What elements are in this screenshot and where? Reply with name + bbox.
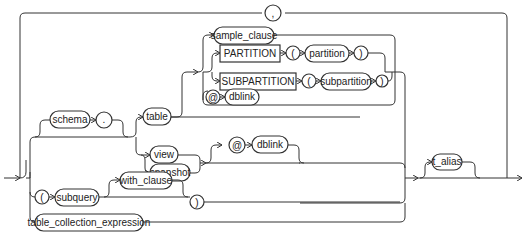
link	[172, 180, 188, 197]
link	[206, 145, 222, 163]
link	[104, 180, 120, 197]
subpartition-keyword: SUBPARTITION	[220, 73, 296, 90]
svg-text:): )	[195, 197, 198, 208]
svg-text:table_collection_expression: table_collection_expression	[28, 217, 151, 228]
svg-text:t_alias: t_alias	[433, 156, 462, 167]
link	[212, 72, 220, 81]
subpartition-node: subpartition	[320, 73, 372, 90]
link	[171, 72, 198, 117]
partition-keyword: PARTITION	[220, 45, 280, 62]
to-view	[136, 137, 150, 155]
link	[368, 53, 385, 72]
link	[203, 53, 220, 72]
to-table	[130, 117, 143, 137]
subquery-node: subquery	[55, 189, 99, 206]
svg-text:schema: schema	[52, 114, 87, 125]
svg-text:): )	[359, 48, 362, 59]
partition-lparen: (	[286, 46, 300, 60]
to-snapshot	[141, 155, 150, 173]
svg-text:@: @	[232, 140, 242, 151]
link	[143, 203, 405, 222]
schema-node: schema	[50, 111, 90, 128]
subquery-lparen: (	[35, 190, 49, 204]
partition-rparen: )	[354, 46, 368, 60]
subquery-rparen: )	[190, 195, 204, 209]
view-node: view	[150, 146, 178, 163]
svg-text:subpartition: subpartition	[320, 76, 372, 87]
svg-text:with_clause: with_clause	[119, 175, 173, 186]
svg-text:subquery: subquery	[56, 192, 97, 203]
comma-node: ,	[265, 5, 281, 21]
link	[400, 163, 405, 168]
svg-text:@: @	[208, 92, 218, 103]
partition-node: partition	[305, 45, 349, 62]
subpartition-rparen: )	[376, 75, 388, 87]
svg-text:,: ,	[272, 8, 275, 19]
table-node: table	[143, 108, 171, 125]
sample-clause-node: sample_clause	[211, 27, 278, 44]
dblink-node-2: dblink	[252, 136, 288, 153]
svg-text:sample_clause: sample_clause	[211, 30, 278, 41]
link	[388, 72, 392, 81]
dot-node: .	[96, 112, 112, 128]
loop-left	[20, 13, 80, 178]
syntax-diagram: , schema . table view snapshot @ dbli	[0, 0, 527, 235]
schema-bypass-up	[35, 120, 50, 137]
upper-path	[30, 137, 130, 178]
link	[300, 117, 405, 203]
svg-text:SUBPARTITION: SUBPARTITION	[222, 76, 295, 87]
link	[30, 178, 35, 197]
at-sign-node-1: @	[206, 90, 220, 104]
svg-text:table: table	[146, 111, 168, 122]
branch-in2	[26, 172, 30, 178]
branch-in	[20, 160, 26, 178]
with-clause-node: with_clause	[119, 172, 173, 189]
table-collection-expression-node: table_collection_expression	[28, 214, 151, 231]
dblink-node-1: dblink	[225, 89, 259, 105]
link	[420, 162, 432, 178]
t-alias-node: t_alias	[432, 154, 462, 170]
at-sign-node-2: @	[229, 137, 245, 153]
svg-text:dblink: dblink	[257, 139, 284, 150]
svg-text:partition: partition	[309, 48, 345, 59]
svg-text:.: .	[103, 114, 106, 125]
link	[462, 162, 480, 178]
loop-top-right	[285, 13, 507, 178]
svg-text:view: view	[154, 149, 175, 160]
link	[288, 145, 304, 163]
schema-rejoin	[112, 120, 128, 137]
subpartition-lparen: (	[302, 74, 316, 88]
svg-text:dblink: dblink	[229, 91, 256, 102]
svg-text:PARTITION: PARTITION	[224, 48, 276, 59]
svg-text:): )	[380, 76, 383, 87]
